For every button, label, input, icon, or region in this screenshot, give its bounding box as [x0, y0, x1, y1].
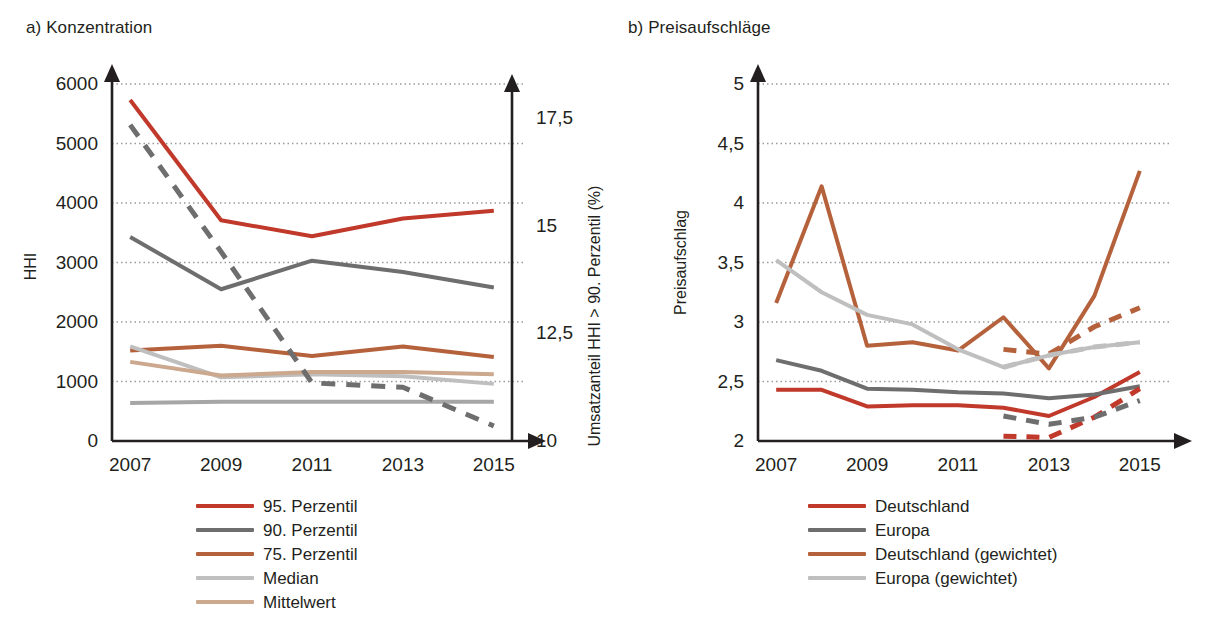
legend-konzentration-item[interactable]: Mittelwert [196, 590, 358, 614]
y-tick: 4,5 [718, 133, 744, 154]
chart-konzentration-svg: 01000200030004000500060001012,51517,5200… [0, 60, 620, 470]
y-tick: 3,5 [718, 252, 744, 273]
legend-konzentration-item[interactable]: 95. Perzentil [196, 494, 358, 518]
x-tick: 2007 [755, 454, 797, 475]
legend-preisaufschlaege-label: Deutschland (gewichtet) [875, 546, 1057, 563]
x-tick: 2013 [1028, 454, 1070, 475]
x-tick: 2009 [200, 454, 242, 475]
legend-swatch-icon [196, 528, 254, 532]
legend-preisaufschlaege-label: Europa (gewichtet) [875, 570, 1018, 587]
legend-swatch-icon [196, 504, 254, 508]
legend-swatch-icon [808, 504, 866, 508]
legend-preisaufschlaege-item[interactable]: Europa (gewichtet) [808, 566, 1057, 590]
y-tick: 4 [733, 192, 744, 213]
x-tick: 2011 [938, 454, 979, 475]
y-tick-left: 2000 [56, 311, 98, 332]
panel-b-title: b) Preisaufschläge [628, 18, 771, 38]
series-line [130, 402, 494, 403]
chart-konzentration: 01000200030004000500060001012,51517,5200… [0, 60, 620, 470]
y-tick-left: 6000 [56, 73, 98, 94]
y-axis-left-arrow [750, 64, 766, 82]
y-axis-title: Preisaufschlag [672, 210, 689, 315]
panel-a-title: a) Konzentration [26, 18, 152, 38]
legend-swatch-icon [808, 552, 866, 556]
y-axis-title-left: HHI [22, 253, 39, 281]
legend-konzentration-label: Median [263, 570, 319, 587]
legend-konzentration: 95. Perzentil90. Perzentil75. PerzentilM… [196, 494, 358, 614]
legend-swatch-icon [808, 528, 866, 532]
y-tick-left: 4000 [56, 192, 98, 213]
series-line [776, 171, 1140, 369]
legend-konzentration-item[interactable]: 90. Perzentil [196, 518, 358, 542]
x-tick: 2007 [109, 454, 151, 475]
y-tick-right: 10 [536, 430, 557, 451]
chart-preisaufschlaege: 22,533,544,5520072009201120132015Preisau… [600, 60, 1218, 470]
series-line [130, 100, 494, 236]
legend-konzentration-item[interactable]: Median [196, 566, 358, 590]
y-tick: 2 [733, 430, 744, 451]
legend-konzentration-label: 90. Perzentil [263, 522, 358, 539]
y-tick-right: 12,5 [536, 322, 573, 343]
legend-preisaufschlaege-item[interactable]: Deutschland (gewichtet) [808, 542, 1057, 566]
legend-swatch-icon [196, 576, 254, 580]
figure-root: a) Konzentration 01000200030004000500060… [0, 0, 1218, 644]
legend-swatch-icon [196, 552, 254, 556]
y-tick: 3 [733, 311, 744, 332]
x-tick: 2009 [846, 454, 888, 475]
y-axis-right-arrow [504, 74, 520, 92]
legend-konzentration-item[interactable]: 75. Perzentil [196, 542, 358, 566]
x-tick: 2013 [382, 454, 424, 475]
series-line [130, 346, 494, 357]
x-tick: 2015 [1119, 454, 1161, 475]
y-tick-right: 15 [536, 215, 557, 236]
y-tick-left: 1000 [56, 371, 98, 392]
legend-konzentration-label: 95. Perzentil [263, 498, 358, 515]
y-tick: 5 [733, 73, 744, 94]
y-axis-left-arrow [104, 64, 120, 82]
y-tick-left: 5000 [56, 133, 98, 154]
legend-swatch-icon [808, 576, 866, 580]
legend-preisaufschlaege-label: Deutschland [875, 498, 970, 515]
legend-konzentration-label: Mittelwert [263, 594, 336, 611]
x-tick: 2015 [473, 454, 515, 475]
y-tick-right: 17,5 [536, 107, 573, 128]
legend-preisaufschlaege: DeutschlandEuropaDeutschland (gewichtet)… [808, 494, 1057, 590]
legend-preisaufschlaege-label: Europa [875, 522, 930, 539]
y-tick: 2,5 [718, 371, 744, 392]
y-tick-left: 3000 [56, 252, 98, 273]
x-axis-arrow [1174, 433, 1192, 449]
y-tick-left: 0 [87, 430, 98, 451]
legend-konzentration-label: 75. Perzentil [263, 546, 358, 563]
legend-preisaufschlaege-item[interactable]: Deutschland [808, 494, 1057, 518]
x-tick: 2011 [292, 454, 333, 475]
legend-preisaufschlaege-item[interactable]: Europa [808, 518, 1057, 542]
chart-preisaufschlaege-svg: 22,533,544,5520072009201120132015Preisau… [600, 60, 1218, 470]
legend-swatch-icon [196, 600, 254, 604]
